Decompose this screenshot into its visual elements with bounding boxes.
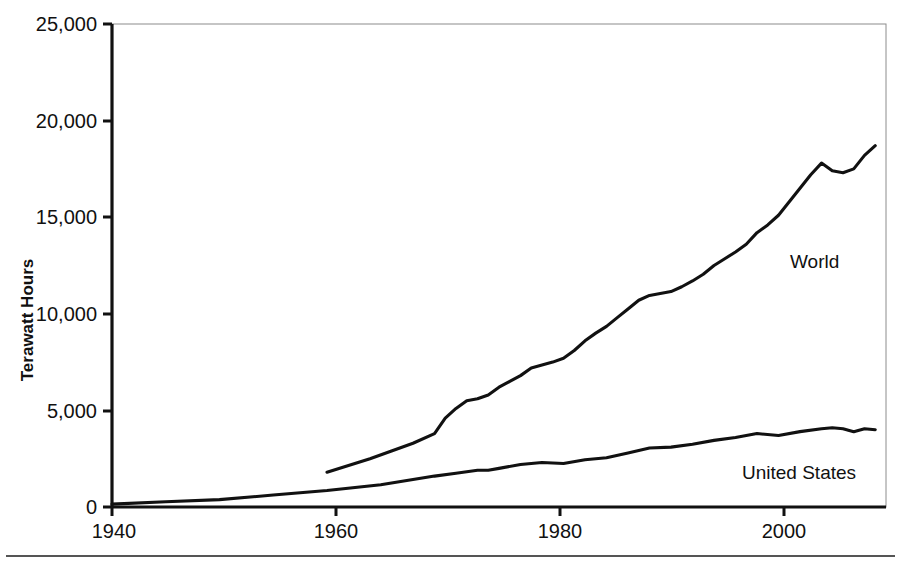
y-tick-label-0: 0 [86,496,97,518]
y-tick-label-10000: 10,000 [36,303,97,325]
x-tick-label-1960: 1960 [314,520,359,542]
series-label-world: World [790,251,839,272]
x-tick-label-1980: 1980 [538,520,583,542]
line-chart-svg: 25,000 20,000 15,000 10,000 5,000 0 1940… [0,0,901,568]
x-tick-label-2000: 2000 [762,520,807,542]
y-tick-label-5000: 5,000 [47,400,97,422]
series-label-united-states: United States [742,462,856,483]
chart-figure: 25,000 20,000 15,000 10,000 5,000 0 1940… [0,0,901,568]
y-tick-label-20000: 20,000 [36,110,97,132]
series-line-world [327,146,875,473]
x-tick-label-1940: 1940 [92,520,137,542]
y-axis-title: Terawatt Hours [18,259,37,382]
y-tick-label-15000: 15,000 [36,206,97,228]
y-tick-label-25000: 25,000 [36,13,97,35]
